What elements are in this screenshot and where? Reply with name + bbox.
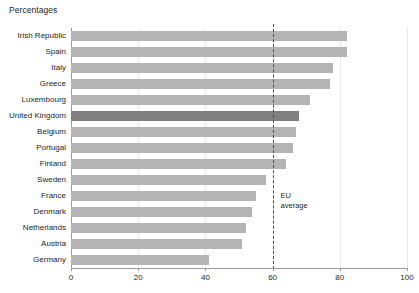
percentages-bar-chart: Percentages Irish RepublicSpainItalyGree… bbox=[0, 0, 419, 293]
bar-row: Denmark bbox=[71, 204, 407, 220]
category-label: Greece bbox=[40, 78, 66, 89]
bar-row: Austria bbox=[71, 236, 407, 252]
category-label: Portugal bbox=[36, 142, 66, 153]
x-tick-label-80: 80 bbox=[335, 273, 344, 282]
bar-row: Netherlands bbox=[71, 220, 407, 236]
category-label: Netherlands bbox=[23, 222, 66, 233]
bar-austria bbox=[71, 239, 242, 249]
category-label: France bbox=[41, 190, 66, 201]
bar-row: Finland bbox=[71, 156, 407, 172]
x-axis: 020406080100 bbox=[71, 268, 407, 269]
bar-italy bbox=[71, 63, 333, 73]
x-tick-label-0: 0 bbox=[69, 273, 73, 282]
bar-row: Germany bbox=[71, 252, 407, 268]
category-label: Germany bbox=[33, 254, 66, 265]
x-tick-40 bbox=[205, 268, 206, 271]
bar-germany bbox=[71, 255, 209, 265]
bar-finland bbox=[71, 159, 286, 169]
category-label: Luxembourg bbox=[22, 94, 66, 105]
category-label: Irish Republic bbox=[18, 30, 66, 41]
bar-row: Italy bbox=[71, 60, 407, 76]
x-tick-60 bbox=[273, 268, 274, 271]
bar-row: Greece bbox=[71, 76, 407, 92]
category-label: United Kingdom bbox=[9, 110, 66, 121]
chart-title: Percentages bbox=[9, 5, 57, 15]
bar-united-kingdom bbox=[71, 111, 299, 121]
bar-netherlands bbox=[71, 223, 246, 233]
bar-greece bbox=[71, 79, 330, 89]
x-tick-label-100: 100 bbox=[400, 273, 413, 282]
bar-spain bbox=[71, 47, 347, 57]
bar-row: Belgium bbox=[71, 124, 407, 140]
category-label: Denmark bbox=[34, 206, 66, 217]
eu-average-label-line2: average bbox=[281, 201, 308, 211]
x-tick-label-20: 20 bbox=[134, 273, 143, 282]
category-label: Sweden bbox=[37, 174, 66, 185]
gridline-100 bbox=[407, 28, 408, 268]
x-tick-100 bbox=[407, 268, 408, 271]
bar-belgium bbox=[71, 127, 296, 137]
category-label: Belgium bbox=[37, 126, 66, 137]
bar-irish-republic bbox=[71, 31, 347, 41]
plot-area: Irish RepublicSpainItalyGreeceLuxembourg… bbox=[71, 28, 407, 268]
bar-row: United Kingdom bbox=[71, 108, 407, 124]
bar-portugal bbox=[71, 143, 293, 153]
x-tick-label-60: 60 bbox=[268, 273, 277, 282]
category-label: Italy bbox=[51, 62, 66, 73]
category-label: Finland bbox=[40, 158, 66, 169]
bar-denmark bbox=[71, 207, 252, 217]
category-label: Austria bbox=[41, 238, 66, 249]
category-label: Spain bbox=[46, 46, 66, 57]
eu-average-label: EUaverage bbox=[281, 191, 308, 210]
bar-sweden bbox=[71, 175, 266, 185]
x-tick-label-40: 40 bbox=[201, 273, 210, 282]
bar-row: Sweden bbox=[71, 172, 407, 188]
bar-row: Spain bbox=[71, 44, 407, 60]
bar-france bbox=[71, 191, 256, 201]
eu-average-label-line1: EU bbox=[281, 191, 308, 201]
bar-luxembourg bbox=[71, 95, 310, 105]
bar-row: France bbox=[71, 188, 407, 204]
eu-average-line bbox=[273, 24, 274, 269]
bar-row: Luxembourg bbox=[71, 92, 407, 108]
bar-row: Portugal bbox=[71, 140, 407, 156]
x-tick-80 bbox=[340, 268, 341, 271]
bar-row: Irish Republic bbox=[71, 28, 407, 44]
x-tick-20 bbox=[138, 268, 139, 271]
x-tick-0 bbox=[71, 268, 72, 271]
